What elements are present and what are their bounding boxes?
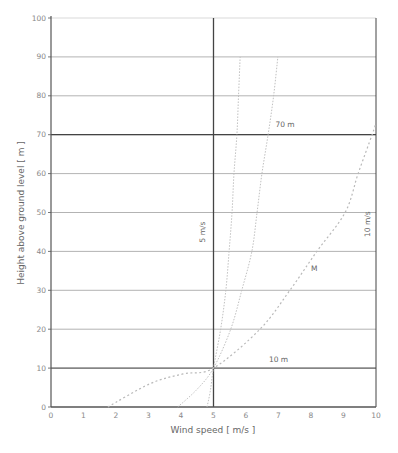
- x-tick-label: 1: [81, 411, 86, 420]
- profile-curve: [178, 57, 278, 407]
- y-tick-label: 60: [36, 169, 46, 178]
- wind-profile-curves: [108, 57, 376, 407]
- x-tick-label: 2: [114, 411, 119, 420]
- y-tick-label: 10: [36, 364, 46, 373]
- y-tick-label: 40: [36, 247, 46, 256]
- y-tick-label: 50: [36, 208, 46, 217]
- y-axis-ticks: 0102030405060708090100: [32, 14, 51, 412]
- y-tick-label: 20: [36, 325, 46, 334]
- x-axis-ticks: 012345678910: [49, 411, 381, 420]
- x-tick-label: 0: [49, 411, 54, 420]
- profile-curve: [108, 123, 376, 407]
- x-tick-label: 3: [146, 411, 151, 420]
- x-tick-label: 10: [371, 411, 381, 420]
- annotation-label: 5 m/s: [198, 221, 207, 242]
- y-axis-label: Height above ground level [ m ]: [16, 141, 26, 285]
- x-tick-label: 7: [276, 411, 281, 420]
- y-tick-label: 70: [36, 130, 46, 139]
- wind-profile-chart: 012345678910 0102030405060708090100 70 m…: [0, 0, 398, 453]
- x-tick-label: 8: [309, 411, 314, 420]
- x-tick-label: 9: [341, 411, 346, 420]
- x-tick-label: 5: [211, 411, 216, 420]
- y-tick-label: 0: [41, 403, 46, 412]
- x-tick-label: 6: [244, 411, 249, 420]
- y-tick-label: 30: [36, 286, 46, 295]
- x-tick-label: 4: [179, 411, 184, 420]
- y-tick-label: 90: [36, 52, 46, 61]
- annotation-label: 10 m/s: [363, 211, 372, 237]
- y-tick-label: 100: [32, 14, 47, 23]
- y-tick-label: 80: [36, 91, 46, 100]
- profile-curve: [207, 57, 240, 407]
- annotation-label: 70 m: [275, 120, 294, 129]
- chart-annotations: 70 m10 m5 m/s10 m/sM: [198, 120, 371, 364]
- annotation-label: M: [311, 264, 317, 273]
- x-axis-label: Wind speed [ m/s ]: [171, 425, 256, 435]
- annotation-label: 10 m: [269, 355, 288, 364]
